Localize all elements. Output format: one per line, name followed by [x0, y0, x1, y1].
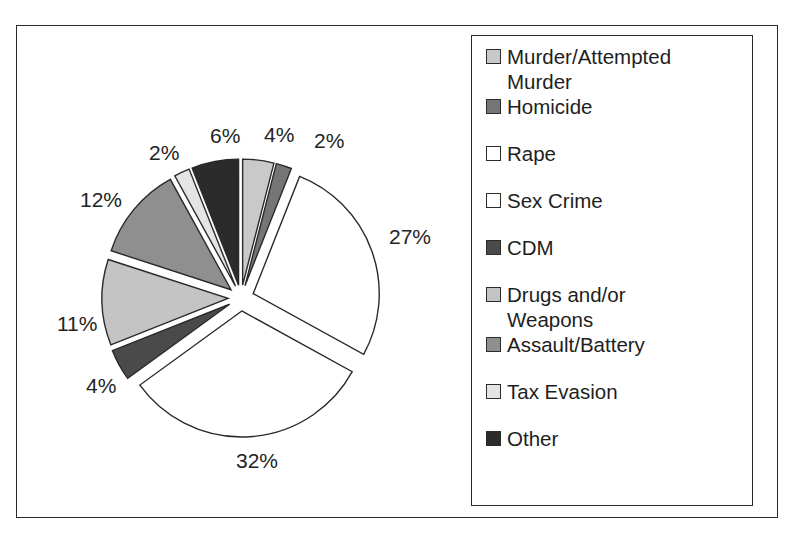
legend-item-label: Tax Evasion — [507, 379, 618, 404]
legend-swatch-icon — [486, 384, 501, 399]
legend-item-label: Drugs and/or Weapons — [507, 282, 626, 332]
legend-item[interactable]: Tax Evasion — [486, 379, 746, 404]
legend-swatch-icon — [486, 240, 501, 255]
legend-box: Murder/Attempted MurderHomicideRapeSex C… — [471, 35, 753, 506]
legend-item[interactable]: Assault/Battery — [486, 332, 746, 357]
pie-percent-label: 32% — [236, 450, 278, 471]
pie-percent-label: 11% — [57, 313, 97, 334]
legend-swatch-icon — [486, 193, 501, 208]
legend-item[interactable]: Drugs and/or Weapons — [486, 282, 746, 332]
legend-item-label: Other — [507, 426, 558, 451]
pie-percent-label: 27% — [389, 226, 431, 247]
legend-item-label: Murder/Attempted Murder — [507, 44, 671, 94]
legend-item[interactable]: Homicide — [486, 94, 746, 119]
legend-item[interactable]: Rape — [486, 141, 746, 166]
legend-swatch-icon — [486, 431, 501, 446]
legend-item[interactable]: Other — [486, 426, 746, 451]
legend-swatch-icon — [486, 337, 501, 352]
pie-chart-figure: 4%2%27%32%4%11%12%2%6% Murder/Attempted … — [0, 0, 796, 540]
legend-item-label: Homicide — [507, 94, 592, 119]
legend-item-label: CDM — [507, 235, 554, 260]
chart-frame: 4%2%27%32%4%11%12%2%6% Murder/Attempted … — [16, 25, 778, 518]
legend-item-label: Assault/Battery — [507, 332, 645, 357]
legend-swatch-icon — [486, 287, 501, 302]
pie-percent-label: 6% — [210, 125, 240, 146]
pie-percent-label: 2% — [314, 130, 344, 151]
legend-item[interactable]: CDM — [486, 235, 746, 260]
pie-slices — [17, 26, 472, 519]
legend-item[interactable]: Sex Crime — [486, 188, 746, 213]
pie-percent-label: 4% — [86, 375, 116, 396]
legend-item-label: Sex Crime — [507, 188, 603, 213]
pie-percent-label: 2% — [149, 142, 179, 163]
legend-item-label: Rape — [507, 141, 556, 166]
legend-swatch-icon — [486, 99, 501, 114]
legend-swatch-icon — [486, 49, 501, 64]
pie-plot-area: 4%2%27%32%4%11%12%2%6% — [17, 26, 472, 519]
pie-percent-label: 4% — [264, 124, 294, 145]
pie-percent-label: 12% — [80, 189, 122, 210]
legend-item[interactable]: Murder/Attempted Murder — [486, 44, 746, 94]
legend-swatch-icon — [486, 146, 501, 161]
legend-list: Murder/Attempted MurderHomicideRapeSex C… — [486, 44, 746, 473]
